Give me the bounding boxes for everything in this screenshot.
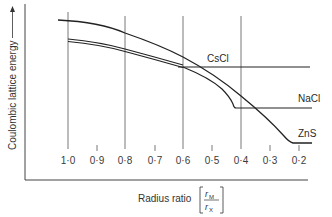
chart: 1·0 0·9 0·8 0·7 0·6 0·5 0·4 0·3 0·2 CsCl… xyxy=(0,0,332,217)
tick-label: 0·6 xyxy=(176,155,191,166)
nacl-label: NaCl xyxy=(298,93,320,104)
tick-label: 0·4 xyxy=(234,155,249,166)
grid-lines xyxy=(68,12,241,149)
zns-label: ZnS xyxy=(298,128,317,139)
tick-labels: 1·0 0·9 0·8 0·7 0·6 0·5 0·4 0·3 0·2 xyxy=(61,155,307,166)
tick-label: 0·8 xyxy=(118,155,133,166)
nacl-cscl-lower xyxy=(68,42,183,68)
tick-label: 0·9 xyxy=(90,155,105,166)
y-axis-label: Coulombic lattice energy xyxy=(7,6,18,150)
svg-text:M: M xyxy=(209,194,214,200)
tick-label: 1·0 xyxy=(61,155,76,166)
svg-text:Radius ratio: Radius ratio xyxy=(138,193,192,204)
svg-text:Coulombic lattice energy: Coulombic lattice energy xyxy=(7,41,18,151)
x-axis-label: Radius ratio r M r X xyxy=(138,187,223,213)
zns-curve xyxy=(58,20,312,143)
cscl-label: CsCl xyxy=(207,53,229,64)
tick-label: 0·3 xyxy=(263,155,278,166)
tick-label: 0·7 xyxy=(148,155,163,166)
tick-label: 0·5 xyxy=(205,155,220,166)
svg-text:X: X xyxy=(209,207,213,213)
minor-ticks xyxy=(97,145,299,151)
tick-label: 0·2 xyxy=(292,155,307,166)
